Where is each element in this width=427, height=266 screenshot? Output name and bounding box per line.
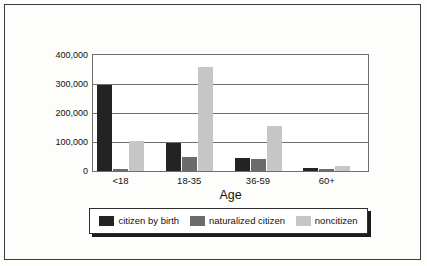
- bar: [251, 159, 266, 171]
- bar: [182, 157, 197, 171]
- legend-label: naturalized citizen: [209, 216, 285, 226]
- bar: [303, 168, 318, 171]
- legend-label: noncitizen: [315, 216, 358, 226]
- x-axis-title: Age: [92, 188, 369, 202]
- bar: [166, 143, 181, 171]
- bar: [129, 141, 144, 171]
- x-axis-tick-label: 36-59: [228, 175, 288, 187]
- legend-label: citizen by birth: [118, 216, 179, 226]
- y-axis-tick-label: 300,000: [32, 80, 88, 89]
- x-axis-tick-label: 60+: [297, 175, 357, 187]
- chart-legend: citizen by birthnaturalized citizennonci…: [89, 208, 368, 234]
- legend-item: noncitizen: [296, 216, 358, 226]
- bar: [319, 169, 334, 171]
- legend-item: naturalized citizen: [190, 216, 285, 226]
- bar: [267, 126, 282, 171]
- y-axis-tick-label: 400,000: [32, 51, 88, 60]
- y-axis-tick-labels: 0100,000200,000300,000400,000: [30, 54, 88, 172]
- bar: [335, 166, 350, 171]
- bar-group: [303, 55, 350, 171]
- legend-swatch-icon: [99, 216, 114, 226]
- y-axis-tick-label: 100,000: [32, 138, 88, 147]
- bar: [113, 169, 128, 171]
- bar-group: [235, 55, 282, 171]
- y-axis-tick-label: 0: [32, 167, 88, 176]
- bar-chart: 0100,000200,000300,000400,000 <1818-3536…: [0, 0, 427, 266]
- y-axis-tick-label: 200,000: [32, 109, 88, 118]
- legend-swatch-icon: [190, 216, 205, 226]
- bars-layer: [93, 55, 368, 171]
- x-axis-tick-labels: <1818-3536-5960+: [93, 175, 368, 189]
- x-axis-tick-label: 18-35: [159, 175, 219, 187]
- legend-item: citizen by birth: [99, 216, 179, 226]
- bar-group: [166, 55, 213, 171]
- bar: [235, 158, 250, 171]
- chart-screenshot: 0100,000200,000300,000400,000 <1818-3536…: [0, 0, 427, 266]
- bar-group: [97, 55, 144, 171]
- bar: [198, 67, 213, 171]
- legend-swatch-icon: [296, 216, 311, 226]
- x-axis-tick-label: <18: [91, 175, 151, 187]
- bar: [97, 85, 112, 171]
